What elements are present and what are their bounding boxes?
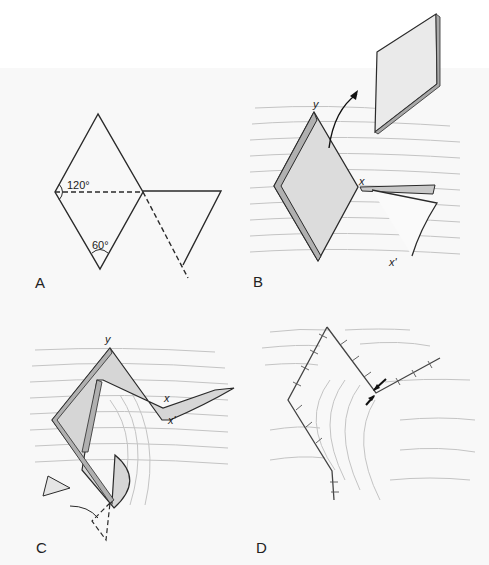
panel-label-c: C <box>36 539 47 556</box>
limberg-flap-diagram: 120° 60° A y x x' B <box>0 0 489 565</box>
angle-label-120: 120° <box>67 179 90 191</box>
panel-label-a: A <box>35 274 45 291</box>
point-label-x: x <box>358 175 365 187</box>
panel-label-d: D <box>256 539 267 556</box>
point-label-x: x <box>163 392 170 404</box>
panel-label-b: B <box>253 273 263 290</box>
point-label-x-prime: x' <box>388 256 398 268</box>
angle-label-60: 60° <box>92 239 109 251</box>
point-label-x-prime: x' <box>167 414 177 426</box>
